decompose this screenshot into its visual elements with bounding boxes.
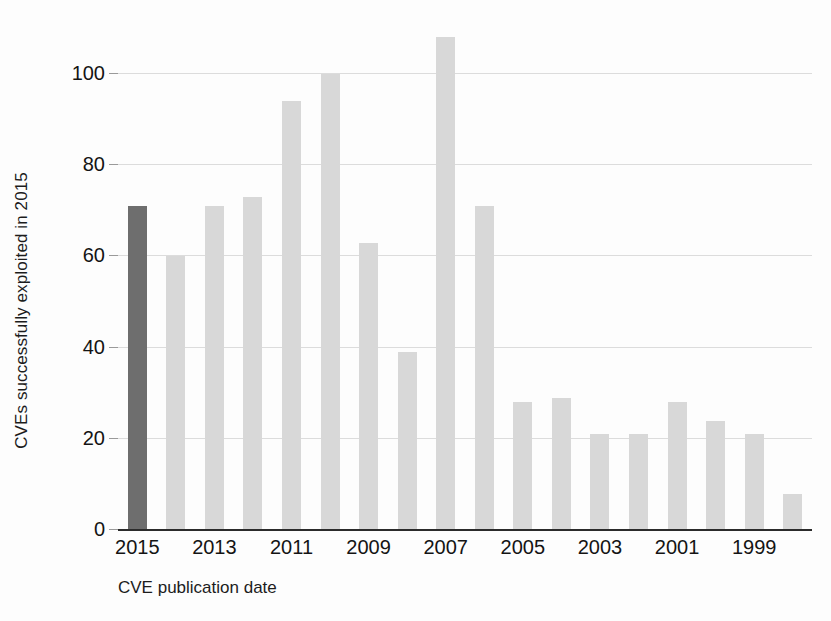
y-tick-mark [109,347,118,348]
bar-chart-figure: CVEs successfully exploited in 2015 0204… [0,0,831,621]
x-axis-ticks: 201520132011200920072005200320011999 [118,536,812,566]
bar [552,398,571,530]
y-tick-mark [109,529,118,530]
bar [321,74,340,530]
bars-container [118,19,812,530]
bar [706,421,725,531]
bar [205,206,224,530]
bar [668,402,687,530]
bar [783,494,802,531]
x-tick-label: 2005 [501,536,546,559]
bar [282,101,301,530]
x-tick-label: 2003 [578,536,623,559]
bar [243,197,262,530]
y-tick-label: 20 [83,426,105,449]
bar [629,434,648,530]
x-tick-label: 2013 [192,536,237,559]
y-tick-mark [109,73,118,74]
x-tick-label: 2001 [655,536,700,559]
y-tick-label: 60 [83,244,105,267]
y-tick-mark [109,255,118,256]
y-tick-mark [109,438,118,439]
bar [745,434,764,530]
x-tick-label: 1999 [732,536,777,559]
y-axis-title-label: CVEs successfully exploited in 2015 [12,172,32,449]
y-tick-label: 0 [94,518,105,541]
plot-area: 020406080100 [118,18,812,530]
bar [398,352,417,530]
bar [128,206,147,530]
bar [436,37,455,530]
x-axis-title: CVE publication date [118,578,277,598]
bar [513,402,532,530]
x-tick-label: 2009 [346,536,391,559]
x-tick-label: 2011 [270,536,313,559]
bar [166,256,185,530]
x-tick-label: 2015 [115,536,160,559]
bar [590,434,609,530]
y-tick-label: 40 [83,335,105,358]
y-tick-label: 80 [83,153,105,176]
bar [359,243,378,530]
y-axis-title: CVEs successfully exploited in 2015 [40,0,80,621]
x-tick-label: 2007 [423,536,468,559]
bar [475,206,494,530]
y-tick-label: 100 [72,61,105,84]
y-tick-mark [109,164,118,165]
x-axis-line [118,529,812,531]
